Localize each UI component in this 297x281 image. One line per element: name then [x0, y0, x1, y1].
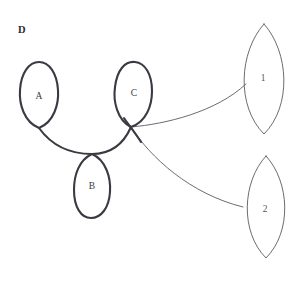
- figure-panel: D 1 2 A C B: [0, 0, 297, 281]
- connector-c-to-vesica-2[interactable]: [131, 127, 243, 207]
- connector-group: [131, 84, 246, 207]
- loop-a-label: A: [36, 91, 43, 101]
- vesica-2-label: 2: [263, 204, 268, 214]
- vesica-group: 1 2: [244, 24, 285, 258]
- loop-b-label: B: [89, 181, 95, 191]
- loop-group: A C B: [20, 62, 152, 218]
- connector-c-to-vesica-1[interactable]: [131, 84, 246, 127]
- arc-c-crossing-tail[interactable]: [124, 118, 141, 142]
- diagram-canvas: 1 2 A C B: [0, 0, 297, 281]
- vesica-1-label: 1: [261, 73, 266, 83]
- loop-c-label: C: [131, 88, 137, 98]
- arc-a-to-c[interactable]: [39, 127, 131, 154]
